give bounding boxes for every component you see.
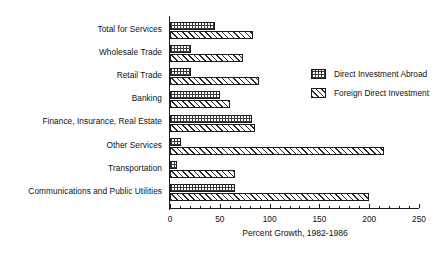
x-tick-minor	[339, 206, 340, 208]
x-tick-label: 150	[312, 214, 326, 224]
legend: Direct Investment Abroad Foreign Direct …	[311, 64, 443, 102]
x-tick-minor	[260, 206, 261, 208]
plot-area	[170, 18, 419, 208]
x-axis-ticks: 050100150200250	[170, 208, 420, 228]
bar-foreign	[170, 100, 230, 108]
category-label: Other Services	[106, 140, 162, 150]
legend-swatch-icon	[311, 88, 326, 98]
x-tick-minor	[389, 206, 390, 208]
x-tick-label: 0	[168, 214, 173, 224]
bar-abroad	[170, 68, 191, 76]
x-tick-minor	[309, 206, 310, 208]
x-tick-label: 50	[215, 214, 224, 224]
x-tick-label: 200	[362, 214, 376, 224]
x-tick-mark	[419, 204, 420, 208]
x-tick-minor	[190, 206, 191, 208]
bar-abroad	[170, 91, 220, 99]
legend-item-abroad: Direct Investment Abroad	[311, 64, 443, 83]
x-tick-minor	[329, 206, 330, 208]
bar-abroad	[170, 22, 215, 30]
x-tick-minor	[399, 206, 400, 208]
x-tick-minor	[409, 206, 410, 208]
x-tick-minor	[379, 206, 380, 208]
bar-foreign	[170, 31, 253, 39]
category-label: Communications and Public Utilities	[28, 186, 162, 196]
category-axis-labels: Total for Services Wholesale Trade Retai…	[0, 18, 166, 208]
x-tick-minor	[359, 206, 360, 208]
bar-foreign	[170, 170, 235, 178]
bar-abroad	[170, 115, 252, 123]
category-label: Banking	[132, 93, 162, 103]
bar-abroad	[170, 161, 177, 169]
bar-chart: Total for Services Wholesale Trade Retai…	[0, 0, 443, 255]
legend-item-foreign: Foreign Direct Investment	[311, 83, 443, 102]
legend-swatch-icon	[311, 69, 326, 79]
x-tick-minor	[349, 206, 350, 208]
bar-abroad	[170, 138, 181, 146]
bar-abroad	[170, 184, 235, 192]
x-tick-mark	[170, 204, 171, 208]
category-label: Finance, Insurance, Real Estate	[42, 116, 162, 126]
x-tick-minor	[230, 206, 231, 208]
x-tick-minor	[240, 206, 241, 208]
x-tick-mark	[270, 204, 271, 208]
x-tick-minor	[250, 206, 251, 208]
legend-label: Foreign Direct Investment	[334, 88, 429, 98]
x-tick-minor	[299, 206, 300, 208]
category-label: Total for Services	[97, 24, 162, 34]
x-tick-mark	[319, 204, 320, 208]
bar-foreign	[170, 54, 243, 62]
bar-foreign	[170, 193, 369, 201]
x-tick-minor	[290, 206, 291, 208]
category-label: Transportation	[108, 163, 162, 173]
bar-abroad	[170, 45, 191, 53]
x-tick-minor	[210, 206, 211, 208]
category-label: Wholesale Trade	[99, 47, 162, 57]
x-axis-title: Percent Growth, 1982-1986	[170, 228, 420, 239]
x-tick-label: 100	[263, 214, 277, 224]
category-label: Retail Trade	[117, 70, 162, 80]
x-tick-mark	[220, 204, 221, 208]
x-tick-minor	[180, 206, 181, 208]
bar-foreign	[170, 124, 255, 132]
bar-foreign	[170, 147, 384, 155]
legend-label: Direct Investment Abroad	[334, 69, 427, 79]
x-tick-minor	[200, 206, 201, 208]
bar-foreign	[170, 77, 259, 85]
x-tick-minor	[280, 206, 281, 208]
x-tick-label: 250	[412, 214, 426, 224]
x-tick-mark	[369, 204, 370, 208]
